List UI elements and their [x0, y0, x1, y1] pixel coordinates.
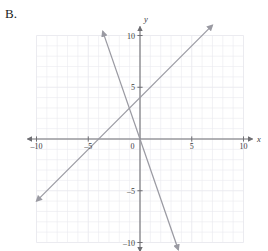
- x-axis-label: x: [256, 134, 261, 144]
- y-tick-label: 10: [127, 32, 135, 41]
- plotted-lines: [37, 25, 213, 250]
- x-tick-label: 0: [131, 142, 135, 151]
- y-axis-label: y: [143, 14, 148, 24]
- x-tick-label: –10: [30, 142, 43, 151]
- y-tick-label: 5: [131, 83, 135, 92]
- x-tick-label: 5: [190, 142, 194, 151]
- figure-container: B. –10–50510105–5–10 x y: [0, 0, 268, 251]
- y-tick-label: –10: [122, 239, 135, 248]
- x-tick-label: –5: [83, 142, 92, 151]
- ascending-line: [37, 25, 213, 201]
- y-tick-label: –5: [126, 187, 135, 196]
- coordinate-plane-graph: –10–50510105–5–10 x y: [0, 0, 268, 251]
- x-tick-label: 10: [240, 142, 248, 151]
